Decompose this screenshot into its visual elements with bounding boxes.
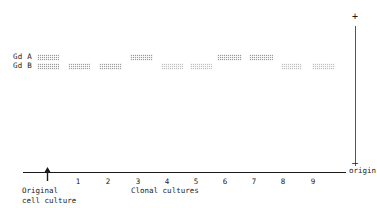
plus-sign-label: + bbox=[352, 12, 358, 22]
x-tick-label-9: 9 bbox=[306, 177, 320, 186]
band-gd-a-original-cell-culture bbox=[37, 54, 59, 61]
band-gd-b-lane-5 bbox=[190, 63, 212, 70]
band-gd-b-original-cell-culture bbox=[37, 63, 59, 70]
band-gd-b-lane-8 bbox=[281, 63, 302, 70]
clonal-cultures-caption: Clonal cultures bbox=[131, 186, 199, 195]
x-tick-label-1: 1 bbox=[71, 177, 85, 186]
band-gd-b-lane-9 bbox=[312, 63, 335, 70]
x-axis-line bbox=[23, 172, 346, 173]
origin-label: origin bbox=[349, 166, 376, 175]
band-gd-a-lane-3 bbox=[130, 54, 153, 61]
up-arrow-icon bbox=[44, 166, 51, 180]
row-label-gd-b: Gd B bbox=[13, 62, 32, 70]
x-tick-label-3: 3 bbox=[131, 177, 145, 186]
x-tick-label-6: 6 bbox=[218, 177, 232, 186]
electrophoresis-figure: Gd A Gd B + — origin 123456789 Original … bbox=[0, 0, 377, 208]
original-caption-line-2: cell culture bbox=[22, 196, 76, 206]
row-label-gd-a: Gd A bbox=[13, 53, 32, 61]
band-gd-b-lane-2 bbox=[99, 63, 122, 70]
band-gd-a-lane-7 bbox=[249, 54, 273, 61]
x-tick-label-2: 2 bbox=[101, 177, 115, 186]
original-cell-culture-caption: Original cell culture bbox=[22, 186, 76, 205]
band-gd-b-lane-1 bbox=[68, 63, 90, 70]
polarity-axis-line bbox=[355, 26, 356, 166]
x-tick-label-4: 4 bbox=[160, 177, 174, 186]
band-gd-a-lane-6 bbox=[217, 54, 242, 61]
x-tick-label-7: 7 bbox=[247, 177, 261, 186]
x-tick-label-5: 5 bbox=[189, 177, 203, 186]
band-gd-b-lane-4 bbox=[161, 63, 183, 70]
original-caption-line-1: Original bbox=[22, 186, 76, 196]
x-tick-label-8: 8 bbox=[276, 177, 290, 186]
